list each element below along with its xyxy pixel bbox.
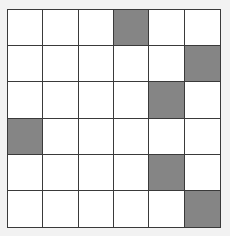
grid-cell-empty [114, 119, 149, 155]
grid-cell-empty [79, 119, 114, 155]
grid-cell-empty [8, 191, 43, 227]
grid-cell-empty [8, 10, 43, 46]
grid-cell-empty [8, 82, 43, 118]
grid-cell-empty [185, 119, 220, 155]
grid-cell-empty [185, 82, 220, 118]
grid-cell-empty [43, 82, 78, 118]
grid-cell-empty [43, 191, 78, 227]
grid-cell-empty [149, 191, 184, 227]
grid-cell-empty [185, 10, 220, 46]
grid-cell-filled [149, 155, 184, 191]
grid-cell-empty [43, 46, 78, 82]
grid-cell-filled [185, 191, 220, 227]
grid-cell-empty [114, 82, 149, 118]
grid-cell-empty [8, 155, 43, 191]
grid-cell-empty [43, 155, 78, 191]
grid-board [7, 9, 221, 228]
grid-cell-empty [43, 119, 78, 155]
grid-cell-empty [114, 155, 149, 191]
grid-cell-empty [79, 155, 114, 191]
grid-cell-empty [185, 155, 220, 191]
grid-cell-empty [79, 46, 114, 82]
grid-cell-empty [79, 191, 114, 227]
grid-cell-filled [149, 82, 184, 118]
grid-cell-empty [79, 10, 114, 46]
grid-cell-empty [79, 82, 114, 118]
grid-cell-filled [185, 46, 220, 82]
grid-cell-empty [43, 10, 78, 46]
grid-cell-empty [114, 191, 149, 227]
grid-cell-empty [149, 119, 184, 155]
grid-cell-empty [149, 10, 184, 46]
grid-cell-empty [8, 46, 43, 82]
grid-cell-empty [114, 46, 149, 82]
grid-cell-filled [114, 10, 149, 46]
grid-cell-empty [149, 46, 184, 82]
grid-cell-filled [8, 119, 43, 155]
